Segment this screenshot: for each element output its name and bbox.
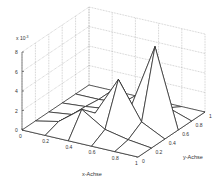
y-tick-label: 0 (142, 158, 145, 164)
y-tick-label: 0.4 (169, 140, 176, 146)
grid-line (89, 27, 205, 54)
z-multiplier-label: x 10-3 (16, 35, 29, 41)
z-tick-label: 6 (15, 69, 18, 75)
y-tick-label: 1 (209, 113, 212, 119)
surface-mesh (22, 47, 205, 157)
y-axis-label: y-Achse (183, 154, 203, 160)
z-tick-label: 2 (15, 108, 18, 114)
mesh-face (142, 47, 179, 139)
z-tick-label: 4 (15, 88, 18, 94)
x-tick-label: 0.6 (89, 149, 96, 155)
y-tick-label: 0.6 (182, 131, 189, 137)
x-tick-label: 1 (135, 160, 138, 166)
surface-chart: x-Achse y-Achse x 10-3 00.20.40.60.8100.… (0, 0, 219, 179)
x-tick-label: 0.8 (112, 155, 119, 161)
grid-line (22, 27, 89, 72)
y-tick-label: 0.2 (155, 149, 162, 155)
x-tick-label: 0.2 (42, 138, 49, 144)
z-tick-label: 0 (15, 127, 18, 133)
x-tick-label: 0 (19, 133, 22, 139)
grid-line (22, 46, 89, 91)
grid-line (22, 7, 89, 52)
x-axis-label: x-Achse (82, 171, 102, 177)
y-tick-label: 0.8 (196, 122, 203, 128)
z-tick-label: 8 (15, 49, 18, 55)
grid-line (89, 7, 205, 34)
x-tick-label: 0.4 (65, 144, 72, 150)
